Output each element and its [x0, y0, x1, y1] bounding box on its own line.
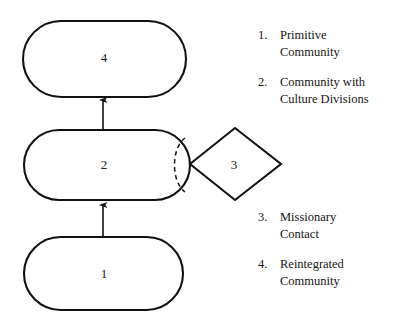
legend-item-2-text: Community with Culture Divisions [280, 74, 403, 107]
legend-item-3-text: Missionary Contact [280, 209, 403, 242]
legend-item-1: 1. Primitive Community [258, 27, 403, 60]
legend-item-2-line-1: Community with [280, 74, 403, 91]
legend-top: 1. Primitive Community 2. Community with… [258, 27, 403, 108]
legend-item-3-number: 3. [258, 209, 280, 226]
legend-item-4: 4. Reintegrated Community [258, 256, 403, 289]
legend-item-2-line-2: Culture Divisions [280, 91, 403, 108]
node-3-label: 3 [231, 157, 238, 172]
legend-item-4-number: 4. [258, 256, 280, 273]
legend-item-1-line-2: Community [280, 44, 403, 61]
legend-bottom: 3. Missionary Contact 4. Reintegrated Co… [258, 209, 403, 290]
node-2-label: 2 [101, 157, 108, 172]
legend-item-3-line-1: Missionary [280, 209, 403, 226]
legend-item-4-line-2: Community [280, 273, 403, 290]
node-1-label: 1 [101, 266, 108, 281]
legend-item-1-text: Primitive Community [280, 27, 403, 60]
node-4-label: 4 [101, 50, 108, 65]
diagram-page: 4 2 3 1 1. Primitive Community 2. Commun… [0, 0, 405, 330]
legend-item-2-number: 2. [258, 74, 280, 91]
legend-item-2: 2. Community with Culture Divisions [258, 74, 403, 107]
legend-item-3-line-2: Contact [280, 226, 403, 243]
legend-item-4-line-1: Reintegrated [280, 256, 403, 273]
legend-item-3: 3. Missionary Contact [258, 209, 403, 242]
legend-item-1-number: 1. [258, 27, 280, 44]
legend-item-4-text: Reintegrated Community [280, 256, 403, 289]
legend-item-1-line-1: Primitive [280, 27, 403, 44]
